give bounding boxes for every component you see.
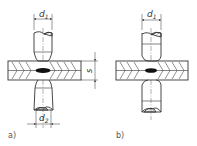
sheet-stack-b bbox=[116, 61, 188, 80]
weld-nugget-b bbox=[145, 68, 157, 73]
top-electrode-b bbox=[142, 14, 161, 61]
spot-weld-diagram: d1 d2 s a) bbox=[0, 0, 197, 146]
top-electrode-a bbox=[34, 14, 52, 61]
label-d1-a: d1 bbox=[39, 9, 49, 20]
weld-nugget-a bbox=[36, 68, 51, 73]
panel-b: d1 b) bbox=[116, 9, 188, 140]
caption-a: a) bbox=[8, 131, 16, 140]
label-d1-b: d1 bbox=[147, 9, 157, 20]
caption-b: b) bbox=[116, 131, 124, 140]
label-s: s bbox=[85, 69, 94, 73]
bottom-electrode-b bbox=[142, 80, 161, 120]
panel-a: d1 d2 s a) bbox=[8, 9, 98, 140]
label-d2-a: d2 bbox=[39, 113, 49, 124]
sheet-stack-a bbox=[8, 61, 81, 80]
